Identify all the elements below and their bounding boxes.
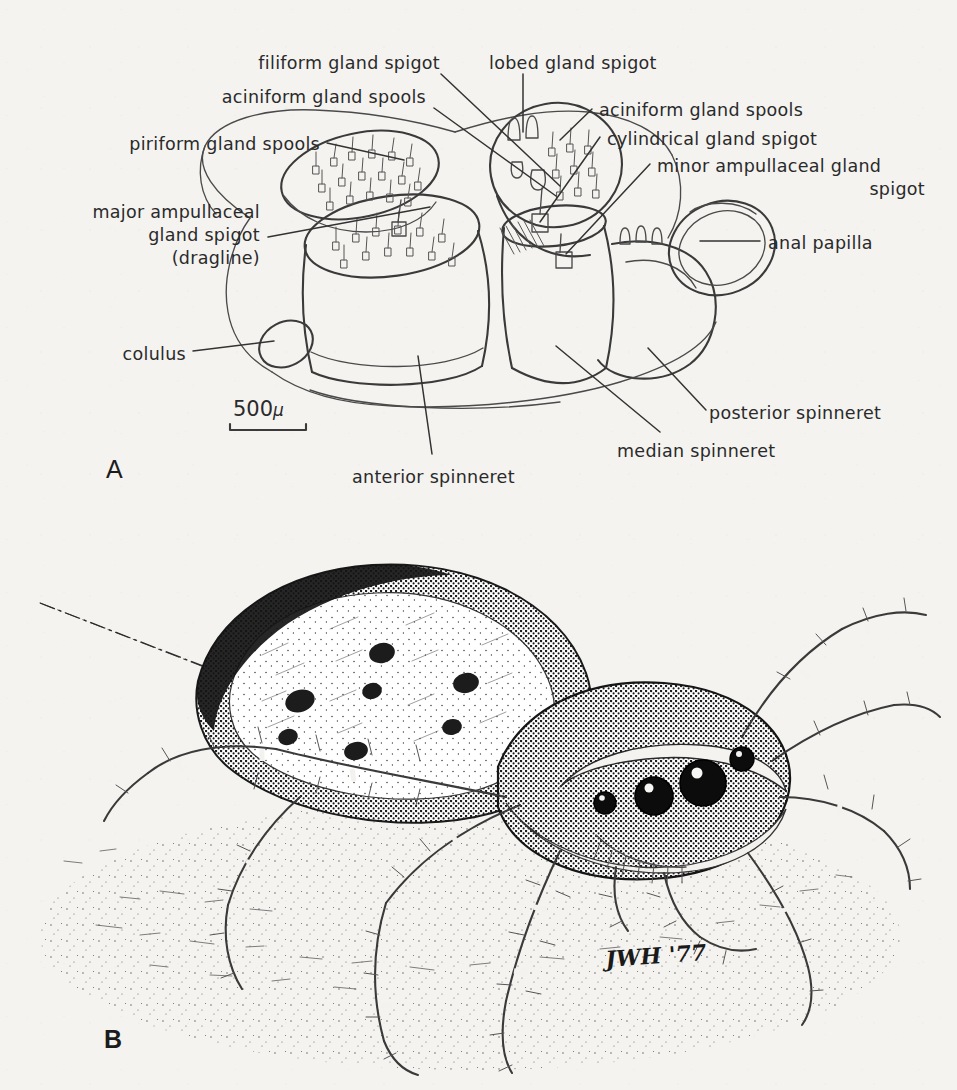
label-median-spinneret: median spinneret (617, 440, 775, 462)
lobed-gland-spigots (508, 116, 545, 190)
panel-b-letter: B (104, 1025, 122, 1054)
panel-b-artwork: JWH '77 (0, 505, 957, 1090)
leg-right-front-raised (742, 598, 926, 737)
label-anal-papilla: anal papilla (768, 232, 873, 254)
label-major-ampullaceal-line1: major ampullaceal (28, 201, 260, 223)
scale-bar-unit: μ (273, 400, 284, 420)
label-major-ampullaceal-line3: (dragline) (28, 247, 260, 269)
label-colulus: colulus (28, 343, 186, 365)
label-anterior-spinneret: anterior spinneret (352, 466, 515, 488)
figure-root: filiform gland spigot aciniform gland sp… (0, 0, 957, 1090)
label-aciniform-gland-spools-left: aciniform gland spools (48, 86, 426, 108)
label-minor-ampullaceal-line2: spigot (657, 178, 925, 200)
lower-body-contour (272, 322, 716, 408)
label-filiform-gland-spigot: filiform gland spigot (48, 52, 440, 74)
label-minor-ampullaceal-line1: minor ampullaceal gland (657, 155, 881, 177)
substrate-ground (40, 800, 900, 1070)
label-aciniform-gland-spools-right: aciniform gland spools (599, 99, 803, 121)
piriform-spool-field (313, 135, 421, 210)
label-cylindrical-gland-spigot: cylindrical gland spigot (607, 128, 817, 150)
panel-a-letter: A (106, 455, 123, 484)
label-posterior-spinneret: posterior spinneret (709, 402, 881, 424)
label-lobed-gland-spigot: lobed gland spigot (489, 52, 657, 74)
leg-right-upper (772, 692, 940, 761)
scale-bar-value: 500 (233, 397, 273, 421)
scale-bar-label: 500μ (233, 397, 284, 421)
posterior-aciniform-field (549, 128, 599, 200)
scale-bar-rule (230, 424, 306, 430)
panel-a-spinneret-diagram: filiform gland spigot aciniform gland sp… (0, 0, 957, 520)
label-major-ampullaceal-line2: gland spigot (28, 224, 260, 246)
label-piriform-gland-spools: piriform gland spools (28, 133, 320, 155)
panel-b-spider-drawing: JWH '77 (0, 505, 957, 1090)
